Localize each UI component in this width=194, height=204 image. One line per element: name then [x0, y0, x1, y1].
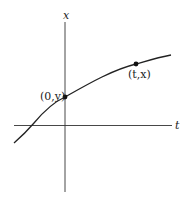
- horizontal-axis-label: t: [175, 119, 180, 132]
- vertical-axis-label: x: [63, 9, 70, 22]
- point-general: [134, 62, 139, 67]
- point-general-label: (t,x): [128, 68, 151, 81]
- point-initial-label: (0,y): [40, 90, 65, 103]
- diagram-canvas: x t (0,y) (t,x): [0, 0, 194, 204]
